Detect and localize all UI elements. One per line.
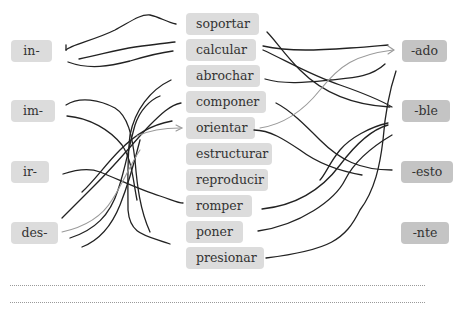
prefix-label: ir- xyxy=(23,164,37,179)
verb-box-poner[interactable]: poner xyxy=(186,221,243,243)
verb-box-soportar[interactable]: soportar xyxy=(186,13,259,35)
answer-line-2[interactable] xyxy=(10,302,425,303)
prefix-label: im- xyxy=(23,103,43,118)
verb-label: orientar xyxy=(196,120,247,135)
verb-box-estructurar[interactable]: estructurar xyxy=(186,143,272,165)
verb-label: presionar xyxy=(196,250,257,265)
verb-label: abrochar xyxy=(196,68,253,83)
suffix-box-ado[interactable]: -ado xyxy=(402,40,447,62)
verb-box-componer[interactable]: componer xyxy=(186,91,266,113)
verb-label: estructurar xyxy=(196,146,268,161)
verb-label: calcular xyxy=(196,42,247,57)
prefix-box-im[interactable]: im- xyxy=(11,100,55,122)
verb-box-calcular[interactable]: calcular xyxy=(186,39,256,61)
prefix-box-des[interactable]: des- xyxy=(11,222,58,244)
suffix-box-ble[interactable]: -ble xyxy=(402,100,450,122)
suffix-label: -ado xyxy=(411,43,438,58)
verb-box-romper[interactable]: romper xyxy=(186,195,252,217)
verb-label: reproducir xyxy=(196,172,264,187)
verb-box-orientar[interactable]: orientar xyxy=(186,117,255,139)
suffix-box-esto[interactable]: -esto xyxy=(401,161,453,183)
verb-box-reproducir[interactable]: reproducir xyxy=(186,169,268,191)
verb-label: soportar xyxy=(196,16,250,31)
verb-label: romper xyxy=(196,198,243,213)
verb-label: poner xyxy=(196,224,233,239)
prefix-label: des- xyxy=(21,225,47,240)
prefix-box-in[interactable]: in- xyxy=(11,40,52,62)
suffix-box-nte[interactable]: -nte xyxy=(401,222,449,244)
verb-label: componer xyxy=(196,94,259,109)
suffix-label: -nte xyxy=(413,225,438,240)
prefix-box-ir[interactable]: ir- xyxy=(11,161,49,183)
verb-box-abrochar[interactable]: abrochar xyxy=(186,65,260,87)
suffix-label: -esto xyxy=(412,164,443,179)
answer-line-1[interactable] xyxy=(10,285,425,286)
verb-box-presionar[interactable]: presionar xyxy=(186,247,264,269)
suffix-label: -ble xyxy=(414,103,438,118)
prefix-label: in- xyxy=(23,43,39,58)
